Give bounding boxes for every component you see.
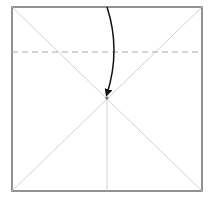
origami-diagram bbox=[0, 0, 211, 202]
center-point bbox=[105, 96, 108, 99]
